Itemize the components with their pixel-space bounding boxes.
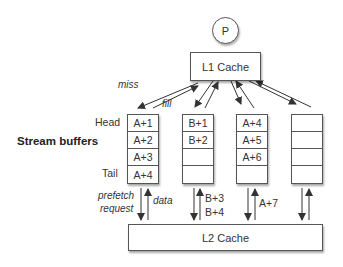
l2-cache-label: L2 Cache (202, 232, 249, 244)
b4-label: B+4 (205, 206, 224, 218)
stream-buffer-4 (291, 114, 323, 184)
fill-arrow (153, 86, 198, 108)
buffer-cell (292, 149, 322, 166)
buffer-cell: A+6 (237, 149, 267, 166)
buffer-cell: B+2 (183, 132, 213, 149)
buffer-cell: A+2 (128, 132, 158, 149)
fill-label: fill (162, 98, 171, 109)
head-label: Head (95, 116, 120, 128)
buffer-cell (292, 132, 322, 149)
b3-label: B+3 (205, 192, 224, 204)
miss-label: miss (118, 79, 139, 90)
processor-node: P (212, 17, 239, 44)
buffer-cell: A+3 (128, 149, 158, 166)
l1-cache-label: L1 Cache (202, 61, 249, 73)
buffer-cell (183, 166, 213, 183)
buffer-cell: B+1 (183, 115, 213, 132)
buffer-cell: A+5 (237, 132, 267, 149)
stream-buffer-3: A+4 A+5 A+6 (236, 114, 268, 184)
buffer-cell (237, 166, 267, 183)
tail-label: Tail (102, 167, 118, 179)
request-label: request (100, 203, 133, 214)
stream-buffer-1: A+1 A+2 A+3 A+4 (127, 114, 159, 184)
data-label: data (153, 195, 172, 206)
buffer-cell (292, 166, 322, 183)
l2-cache-box: L2 Cache (128, 224, 323, 251)
buffer-cell: A+4 (237, 115, 267, 132)
stream-buffers-title: Stream buffers (17, 135, 98, 147)
buffer-cell (292, 115, 322, 132)
buffer-cell: A+4 (128, 166, 158, 183)
buffer-cell (183, 149, 213, 166)
processor-label: P (222, 25, 229, 37)
l1-cache-box: L1 Cache (190, 52, 261, 81)
stream-buffer-2: B+1 B+2 (182, 114, 214, 184)
a7-label: A+7 (259, 197, 278, 209)
buffer-cell: A+1 (128, 115, 158, 132)
prefetch-label: prefetch (98, 190, 134, 201)
